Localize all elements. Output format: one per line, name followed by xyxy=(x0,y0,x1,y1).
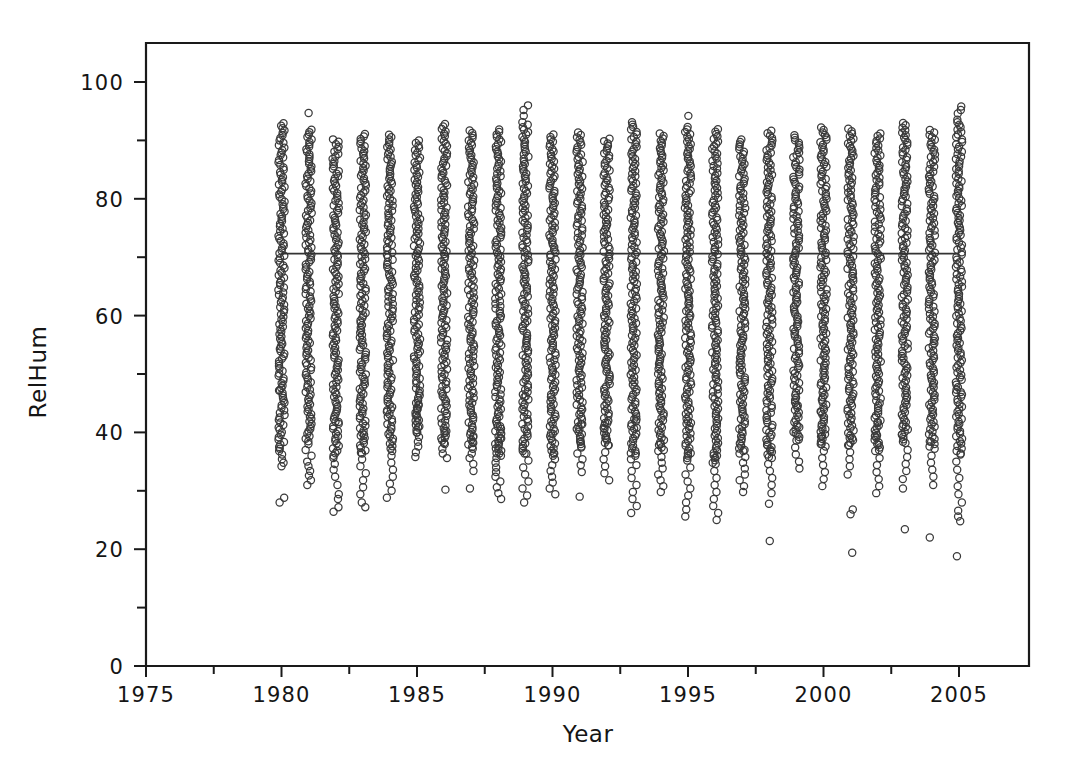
year-column xyxy=(790,132,803,473)
data-point xyxy=(768,490,775,497)
y-tick-label: 100 xyxy=(80,71,124,95)
data-point xyxy=(601,470,608,477)
data-point xyxy=(953,458,960,465)
data-point xyxy=(684,478,691,485)
x-tick-label: 1995 xyxy=(659,683,717,707)
data-point xyxy=(687,464,694,471)
data-point xyxy=(821,469,828,476)
data-point xyxy=(276,499,283,506)
data-point xyxy=(633,502,640,509)
x-axis-title: Year xyxy=(562,721,614,747)
data-point xyxy=(682,499,689,506)
data-point xyxy=(930,481,937,488)
data-point xyxy=(552,491,559,498)
data-point xyxy=(766,537,773,544)
data-point xyxy=(389,466,396,473)
data-point xyxy=(929,466,936,473)
data-point xyxy=(904,446,911,453)
scatter-plot: 1975198019851990199520002005020406080100… xyxy=(0,0,1080,773)
data-point xyxy=(713,488,720,495)
data-point xyxy=(335,504,342,511)
data-point xyxy=(930,473,937,480)
year-column xyxy=(329,136,342,516)
data-point xyxy=(521,499,528,506)
data-point xyxy=(388,459,395,466)
data-point xyxy=(628,474,635,481)
x-tick-label: 2000 xyxy=(794,683,852,707)
data-point xyxy=(713,474,720,481)
year-column xyxy=(410,137,423,461)
year-column xyxy=(844,125,857,556)
x-tick-label: 1990 xyxy=(523,683,581,707)
data-point xyxy=(955,491,962,498)
data-point xyxy=(335,491,342,498)
data-point xyxy=(873,462,880,469)
y-tick-label: 0 xyxy=(109,655,124,679)
data-point xyxy=(386,480,393,487)
data-point xyxy=(903,467,910,474)
year-column xyxy=(763,127,776,545)
data-point xyxy=(629,488,636,495)
year-column xyxy=(465,127,478,492)
year-column xyxy=(708,126,721,524)
y-tick-label: 20 xyxy=(95,538,124,562)
year-column xyxy=(383,131,396,501)
data-point xyxy=(711,467,718,474)
y-axis-title: RelHum xyxy=(25,326,51,419)
data-point xyxy=(926,534,933,541)
data-point xyxy=(819,483,826,490)
data-point xyxy=(846,463,853,470)
data-point xyxy=(602,463,609,470)
data-point xyxy=(578,469,585,476)
data-point xyxy=(357,491,364,498)
x-tick-label: 1985 xyxy=(388,683,446,707)
year-column xyxy=(600,135,613,484)
year-column xyxy=(275,120,288,506)
data-point xyxy=(901,526,908,533)
data-point xyxy=(766,467,773,474)
data-point xyxy=(876,455,883,462)
data-point xyxy=(359,484,366,491)
data-point xyxy=(954,466,961,473)
data-point xyxy=(600,456,607,463)
data-point xyxy=(519,485,526,492)
data-point xyxy=(523,492,530,499)
data-point xyxy=(873,469,880,476)
data-point xyxy=(876,483,883,490)
data-point xyxy=(928,452,935,459)
data-point xyxy=(792,444,799,451)
y-tick-label: 80 xyxy=(95,188,124,212)
x-tick-label: 2005 xyxy=(930,683,988,707)
data-point xyxy=(765,500,772,507)
data-point xyxy=(383,494,390,501)
data-point xyxy=(873,490,880,497)
year-column xyxy=(681,112,694,520)
data-point xyxy=(711,481,718,488)
data-point xyxy=(958,499,965,506)
data-point xyxy=(606,477,613,484)
data-point xyxy=(899,485,906,492)
data-point xyxy=(715,509,722,516)
y-tick-label: 40 xyxy=(95,421,124,445)
data-point xyxy=(305,109,312,116)
data-point xyxy=(359,477,366,484)
y-tick-label: 60 xyxy=(95,305,124,329)
data-point xyxy=(388,452,395,459)
data-point xyxy=(899,476,906,483)
data-point xyxy=(629,495,636,502)
year-column xyxy=(627,119,640,517)
data-point xyxy=(847,449,854,456)
data-point xyxy=(875,476,882,483)
data-point xyxy=(466,485,473,492)
data-point xyxy=(710,495,717,502)
data-point xyxy=(844,471,851,478)
data-point xyxy=(633,462,640,469)
data-point xyxy=(795,458,802,465)
data-point xyxy=(736,477,743,484)
data-point xyxy=(956,474,963,481)
data-point xyxy=(820,462,827,469)
data-point xyxy=(687,485,694,492)
data-point xyxy=(819,455,826,462)
data-point xyxy=(305,472,312,479)
data-point xyxy=(361,130,368,137)
